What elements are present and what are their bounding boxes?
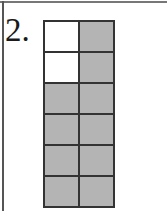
- shaded-cell: [44, 176, 79, 207]
- problem-number: 2.: [5, 14, 30, 47]
- shaded-cell: [44, 145, 79, 176]
- shaded-cell: [79, 145, 114, 176]
- unshaded-cell: [44, 21, 79, 52]
- shaded-cell: [79, 52, 114, 83]
- shaded-cell: [44, 114, 79, 145]
- shaded-cell: [79, 176, 114, 207]
- left-border-line: [2, 1, 4, 211]
- shaded-cell: [44, 83, 79, 114]
- top-border-line: [0, 1, 167, 3]
- unshaded-cell: [44, 52, 79, 83]
- shaded-cell: [79, 21, 114, 52]
- shaded-cell: [79, 114, 114, 145]
- fraction-grid: [43, 20, 115, 208]
- shaded-cell: [79, 83, 114, 114]
